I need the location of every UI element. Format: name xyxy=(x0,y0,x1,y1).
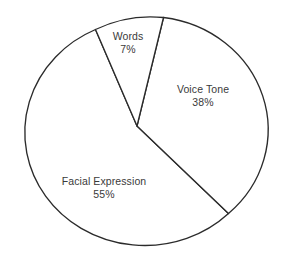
pie-label-voice-tone-name: Voice Tone xyxy=(177,83,229,96)
pie-label-words-value: 7% xyxy=(113,42,144,55)
pie-label-facial-expression: Facial Expression 55% xyxy=(62,175,147,200)
pie-label-voice-tone-value: 38% xyxy=(177,95,229,108)
pie-label-words: Words 7% xyxy=(113,30,144,55)
pie-label-facial-expression-value: 55% xyxy=(62,187,147,200)
pie-label-facial-expression-name: Facial Expression xyxy=(62,175,147,188)
pie-label-words-name: Words xyxy=(113,30,144,43)
pie-chart: Words 7% Voice Tone 38% Facial Expressio… xyxy=(0,0,286,263)
pie-label-voice-tone: Voice Tone 38% xyxy=(177,83,229,108)
